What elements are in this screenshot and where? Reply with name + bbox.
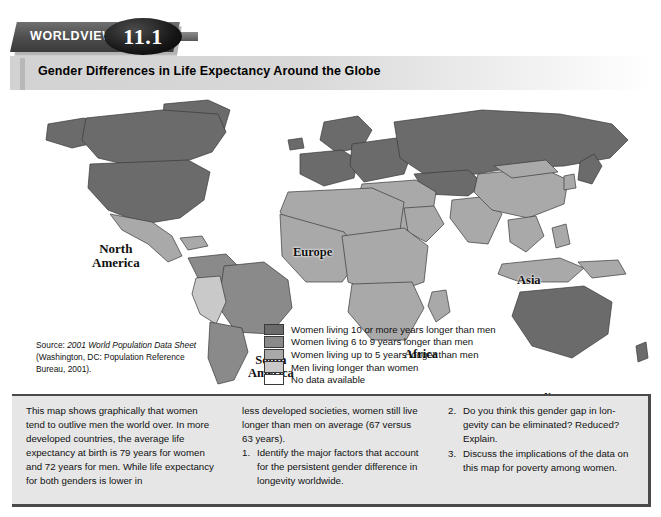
region-canada	[82, 110, 226, 166]
region-australia	[512, 286, 612, 358]
legend-label: Men living longer than women	[291, 362, 418, 373]
title-accent-bar	[20, 58, 25, 90]
map-label-north-america: North America	[92, 242, 140, 269]
panel-bottom-rule	[12, 504, 650, 507]
question-number: 1.	[242, 446, 257, 488]
legend-label: No data available	[291, 374, 365, 385]
legend-item: Men living longer than women	[264, 361, 496, 374]
legend-swatch-none	[264, 374, 284, 386]
legend-item: Women living up to 5 years longer than m…	[264, 348, 496, 361]
region-new-guinea	[578, 260, 626, 278]
legend-swatch-medium	[264, 349, 284, 361]
panel-right-rule	[648, 394, 651, 507]
legend-label: Women living 6 to 9 years longer than me…	[291, 336, 473, 347]
source-title: 2001 World Population Data Sheet	[67, 340, 196, 350]
region-madagascar	[428, 290, 450, 322]
worldview-figure: WORLDVIEW 11.1 Gender Differences in Lif…	[0, 0, 661, 517]
legend-item: No data available	[264, 373, 496, 386]
source-note: Source: 2001 World Population Data Sheet…	[36, 340, 211, 376]
legend-swatch-light	[264, 361, 284, 373]
discussion-paragraph-continued: less developed societies, women still li…	[242, 404, 424, 446]
question-number: 2.	[448, 404, 463, 446]
region-southern-cone	[208, 322, 248, 384]
legend-label: Women living 10 or more years longer tha…	[291, 324, 496, 335]
question-list-2: 2. Do you think this gender gap in lon-g…	[448, 404, 640, 475]
map-legend: Women living 10 or more years longer tha…	[264, 323, 496, 386]
chapter-number: 11.1	[104, 18, 182, 55]
discussion-column-3: 2. Do you think this gender gap in lon-g…	[434, 396, 650, 506]
region-usa	[88, 160, 210, 224]
region-iceland	[288, 138, 304, 150]
question-list-1: 1. Identify the major factors that accou…	[242, 446, 424, 488]
discussion-panel: This map shows graphically that women te…	[12, 396, 650, 506]
source-rest: (Washington, DC: Population Reference Bu…	[36, 352, 185, 374]
banner-kicker: WORLDVIEW	[30, 29, 115, 43]
question-item: 1. Identify the major factors that accou…	[242, 446, 424, 488]
region-indonesia	[498, 258, 584, 282]
figure-title: Gender Differences in Life Expectancy Ar…	[38, 64, 381, 78]
question-item: 3. Discuss the implications of the data …	[448, 447, 640, 475]
legend-swatch-darkest	[264, 324, 284, 336]
header-banner: WORLDVIEW 11.1	[0, 20, 661, 56]
region-andes	[192, 276, 226, 324]
question-text: Discuss the implications of the data on …	[463, 447, 640, 475]
region-new-zealand	[636, 342, 648, 362]
question-number: 3.	[448, 447, 463, 475]
discussion-column-1: This map shows graphically that women te…	[12, 396, 228, 506]
chapter-badge: 11.1	[104, 18, 182, 55]
question-item: 2. Do you think this gender gap in lon-g…	[448, 404, 640, 446]
question-text: Do you think this gender gap in lon-gevi…	[463, 404, 640, 446]
source-prefix: Source:	[36, 340, 67, 350]
region-philippines	[552, 224, 570, 248]
region-caribbean	[180, 236, 208, 250]
legend-label: Women living up to 5 years longer than m…	[291, 349, 479, 360]
legend-item: Women living 10 or more years longer tha…	[264, 323, 496, 336]
region-southeast-asia	[508, 216, 544, 252]
map-label-asia: Asia	[517, 274, 541, 287]
discussion-paragraph: This map shows graphically that women te…	[26, 404, 218, 488]
region-korea	[564, 174, 576, 190]
legend-item: Women living 6 to 9 years longer than me…	[264, 336, 496, 349]
question-text: Identify the major factors that account …	[257, 446, 424, 488]
legend-swatch-dark	[264, 336, 284, 348]
discussion-column-2: less developed societies, women still li…	[228, 396, 434, 506]
map-label-europe: Europe	[293, 246, 332, 259]
region-western-europe	[300, 150, 358, 186]
